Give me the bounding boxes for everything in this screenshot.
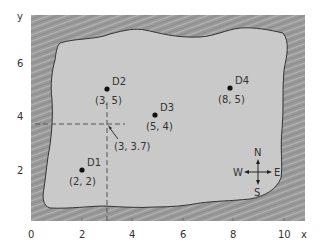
- point-d3-name: D3: [160, 102, 174, 113]
- compass-north-label: N: [254, 147, 261, 158]
- point-d4: [227, 85, 232, 90]
- x-tick-4: 4: [129, 229, 135, 240]
- point-d2: [104, 86, 109, 91]
- point-d3-coord: (5, 4): [146, 121, 173, 132]
- x-tick-8: 8: [230, 229, 236, 240]
- coordinate-map-diagram: D1 (2, 2) D2 (3, 5) D3 (5, 4) D4 (8, 5) …: [0, 0, 323, 247]
- point-d4-coord: (8, 5): [218, 94, 245, 105]
- point-d2-coord: (3, 5): [95, 95, 122, 106]
- x-axis-label: x: [301, 229, 307, 240]
- point-d3: [152, 112, 157, 117]
- compass-south-label: S: [254, 187, 260, 198]
- point-d2-name: D2: [112, 76, 126, 87]
- y-tick-4: 4: [17, 111, 23, 122]
- x-tick-0: 0: [28, 229, 34, 240]
- point-d4-name: D4: [235, 75, 249, 86]
- x-tick-2: 2: [79, 229, 85, 240]
- compass-west-label: W: [233, 167, 243, 178]
- y-tick-6: 6: [17, 58, 23, 69]
- point-d1: [79, 167, 84, 172]
- compass-east-label: E: [274, 167, 280, 178]
- x-tick-10: 10: [278, 229, 291, 240]
- point-d1-coord: (2, 2): [69, 176, 96, 187]
- y-axis-label: y: [17, 11, 23, 22]
- x-tick-6: 6: [180, 229, 186, 240]
- annotation-coord: (3, 3.7): [114, 141, 151, 152]
- y-tick-2: 2: [17, 165, 23, 176]
- point-d1-name: D1: [87, 157, 101, 168]
